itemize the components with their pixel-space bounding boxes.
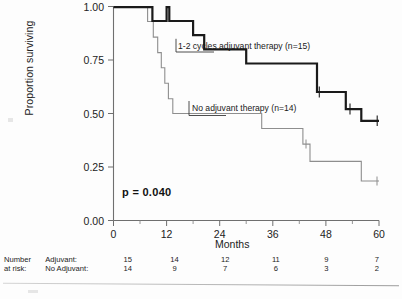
risk-adjuvant-24: 12 — [200, 255, 251, 264]
scan-artifact — [8, 118, 13, 122]
y-tick-label-0.25: 0.25 — [70, 161, 104, 173]
x-tick-label-0: 0 — [99, 228, 129, 240]
x-tick-label-36: 36 — [258, 228, 288, 240]
risk-table-header-line1: Number — [4, 255, 45, 264]
risk-adjuvant-48: 9 — [301, 255, 351, 264]
risk-adjuvant-60: 7 — [352, 255, 402, 264]
table-row: Number Adjuvant: 15 14 12 11 9 7 — [4, 255, 402, 264]
risk-table-header-line2: at risk: — [4, 264, 45, 273]
risk-table-group-label-no-adjuvant: No Adjuvant: — [45, 264, 106, 273]
table-row: at risk: No Adjuvant: 14 9 7 6 3 2 — [4, 264, 402, 273]
numbers-at-risk-table: Number Adjuvant: 15 14 12 11 9 7 at risk… — [4, 255, 402, 274]
risk-adjuvant-36: 11 — [251, 255, 302, 264]
y-tick-label-0.00: 0.00 — [70, 215, 104, 227]
curve-label-adjuvant: 1-2 cycles adjuvant therapy (n=15) — [178, 41, 310, 51]
risk-no-adjuvant-0: 14 — [106, 264, 149, 273]
risk-adjuvant-0: 15 — [106, 255, 149, 264]
curve-label-no-adjuvant: No adjuvant therapy (n=14) — [192, 103, 296, 113]
y-tick-label-0.75: 0.75 — [70, 54, 104, 66]
x-tick-label-12: 12 — [152, 228, 182, 240]
p-value-annotation: p = 0.040 — [122, 186, 171, 198]
risk-no-adjuvant-24: 7 — [200, 264, 251, 273]
y-tick-label-0.50: 0.50 — [70, 108, 104, 120]
risk-adjuvant-12: 14 — [149, 255, 200, 264]
risk-no-adjuvant-12: 9 — [149, 264, 200, 273]
survival-plot-figure: Proportion surviving 1.00 0.75 0.50 0.25… — [0, 0, 402, 299]
risk-no-adjuvant-48: 3 — [301, 264, 351, 273]
scan-artifact — [28, 290, 38, 293]
risk-table-group-label-adjuvant: Adjuvant: — [45, 255, 106, 264]
y-axis-ticks — [108, 7, 114, 221]
curve-no-adjuvant — [114, 7, 380, 182]
censor-marks-no-adjuvant — [306, 140, 377, 186]
y-tick-label-1.00: 1.00 — [70, 1, 104, 13]
x-tick-label-48: 48 — [311, 228, 341, 240]
x-axis-title: Months — [215, 238, 249, 250]
risk-no-adjuvant-60: 2 — [352, 264, 402, 273]
x-tick-label-60: 60 — [364, 228, 394, 240]
y-axis-title: Proportion surviving — [23, 0, 35, 153]
risk-no-adjuvant-36: 6 — [251, 264, 302, 273]
